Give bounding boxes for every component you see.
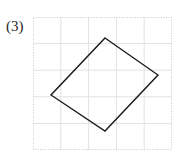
figure-root: (3) — [0, 0, 189, 162]
problem-number-label: (3) — [6, 17, 24, 36]
shape-layer — [51, 38, 158, 131]
grid-panel — [33, 17, 172, 150]
grid-and-shape-svg — [33, 17, 172, 150]
quadrilateral — [51, 38, 158, 131]
